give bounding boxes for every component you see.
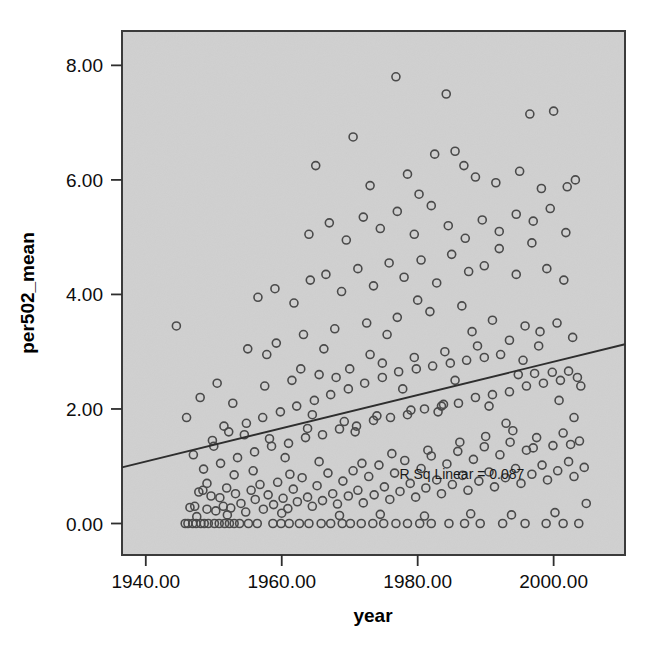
y-tick-label: 2.00 xyxy=(66,399,103,420)
y-axis-title: per502_mean xyxy=(17,232,38,353)
x-tick-label: 1940.00 xyxy=(111,571,180,592)
x-tick-label: 2000.00 xyxy=(519,571,588,592)
y-tick-label: 4.00 xyxy=(66,284,103,305)
r-squared-annotation: R Sq Linear = 0.087 xyxy=(399,466,524,482)
plot-canvas: 1940.001960.001980.002000.00 0.002.004.0… xyxy=(0,0,654,648)
x-tick-label: 1980.00 xyxy=(383,571,452,592)
x-tick-label: 1960.00 xyxy=(247,571,316,592)
x-axis-title: year xyxy=(353,605,393,626)
y-tick-label: 0.00 xyxy=(66,514,103,535)
y-tick-label: 8.00 xyxy=(66,55,103,76)
scatter-plot-figure: 1940.001960.001980.002000.00 0.002.004.0… xyxy=(0,0,654,648)
y-tick-label: 6.00 xyxy=(66,170,103,191)
